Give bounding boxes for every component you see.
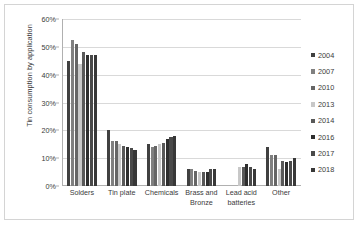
legend-swatch-icon	[311, 151, 315, 155]
bar	[115, 141, 118, 186]
legend-swatch-icon	[311, 86, 315, 90]
legend-item-label: 2018	[318, 165, 334, 174]
bar	[289, 161, 292, 186]
y-axis-tick-label: 60%	[42, 15, 56, 24]
bar	[238, 167, 241, 186]
legend-swatch-icon	[311, 102, 315, 106]
legend-item-label: 2014	[318, 116, 334, 125]
bar	[293, 158, 296, 186]
bar	[278, 169, 281, 186]
bar-group	[261, 19, 301, 186]
bar-group	[142, 19, 182, 186]
bar	[158, 144, 161, 186]
bar	[126, 147, 129, 186]
bar	[71, 40, 74, 186]
legend-item[interactable]: 2010	[311, 80, 359, 96]
legend-item-label: 2017	[318, 149, 334, 158]
bar	[111, 141, 114, 186]
bar-group	[62, 19, 102, 186]
y-axis-tick-label: 10%	[42, 154, 56, 163]
x-axis-category-label: Brass and Bronze	[181, 188, 221, 207]
bar-group	[181, 19, 221, 186]
x-axis-category-label: Solders	[62, 188, 102, 207]
y-axis-tick-mark	[56, 46, 59, 47]
bar	[266, 147, 269, 186]
y-axis-tick-label: 30%	[42, 98, 56, 107]
bar	[75, 44, 78, 186]
y-axis-tick-mark	[56, 130, 59, 131]
bar	[94, 55, 97, 186]
bar	[130, 148, 133, 186]
chart-screenshot: Tin consumption by application 0%10%20%3…	[0, 0, 359, 226]
x-axis-category-labels: SoldersTin plateChemicalsBrass and Bronz…	[62, 188, 301, 207]
bar	[154, 146, 157, 186]
bar-group	[102, 19, 142, 186]
bar	[206, 172, 209, 186]
bar	[249, 167, 252, 186]
bar	[151, 147, 154, 186]
bar	[245, 164, 248, 186]
bar	[86, 55, 89, 186]
bar	[133, 150, 136, 186]
bar	[274, 155, 277, 186]
y-axis-tick-label: 20%	[42, 126, 56, 135]
y-axis-tick-label: 50%	[42, 42, 56, 51]
bar	[166, 139, 169, 186]
bar	[107, 130, 110, 186]
y-axis-tick-mark	[56, 186, 59, 187]
bar	[253, 169, 256, 186]
bar	[270, 155, 273, 186]
bar	[67, 61, 70, 186]
legend-item[interactable]: 2017	[311, 145, 359, 161]
bar	[190, 169, 193, 186]
y-axis-tick-label: 0%	[46, 182, 56, 191]
legend-item[interactable]: 2004	[311, 47, 359, 63]
bar	[162, 143, 165, 186]
bar	[285, 162, 288, 186]
chart-legend: 20042007201020132014201620172018	[311, 47, 359, 178]
bar	[78, 64, 81, 186]
bar	[90, 55, 93, 186]
bar	[187, 169, 190, 186]
plot-area	[62, 19, 301, 186]
bar-groups	[62, 19, 301, 186]
legend-swatch-icon	[311, 69, 315, 73]
bar	[147, 144, 150, 186]
bar	[209, 169, 212, 186]
bar	[281, 161, 284, 186]
y-axis-tick-mark	[56, 74, 59, 75]
x-axis-category-label: Lead acid batteries	[221, 188, 261, 207]
y-axis-tick-mark	[56, 102, 59, 103]
bar	[173, 136, 176, 186]
legend-item-label: 2007	[318, 67, 334, 76]
y-axis-tick-mark	[56, 158, 59, 159]
legend-item[interactable]: 2016	[311, 129, 359, 145]
x-axis-category-label: Tin plate	[102, 188, 142, 207]
legend-item-label: 2016	[318, 133, 334, 142]
legend-swatch-icon	[311, 53, 315, 57]
bar	[118, 144, 121, 186]
legend-swatch-icon	[311, 168, 315, 172]
x-axis-category-label: Other	[261, 188, 301, 207]
bar	[198, 172, 201, 186]
bar	[213, 169, 216, 186]
bar	[202, 172, 205, 186]
bar	[82, 52, 85, 186]
legend-item[interactable]: 2013	[311, 96, 359, 112]
chart-frame: Tin consumption by application 0%10%20%3…	[4, 4, 354, 220]
legend-item-label: 2013	[318, 100, 334, 109]
bar	[169, 137, 172, 186]
legend-item-label: 2010	[318, 83, 334, 92]
bar	[122, 146, 125, 186]
bar-group	[221, 19, 261, 186]
legend-item[interactable]: 2007	[311, 63, 359, 79]
legend-item[interactable]: 2018	[311, 162, 359, 178]
legend-swatch-icon	[311, 119, 315, 123]
legend-item[interactable]: 2014	[311, 113, 359, 129]
bar	[242, 167, 245, 186]
legend-item-label: 2004	[318, 51, 334, 60]
y-axis-tick-labels: 0%10%20%30%40%50%60%	[31, 19, 59, 186]
legend-swatch-icon	[311, 135, 315, 139]
y-axis-tick-label: 40%	[42, 70, 56, 79]
bar	[194, 171, 197, 186]
